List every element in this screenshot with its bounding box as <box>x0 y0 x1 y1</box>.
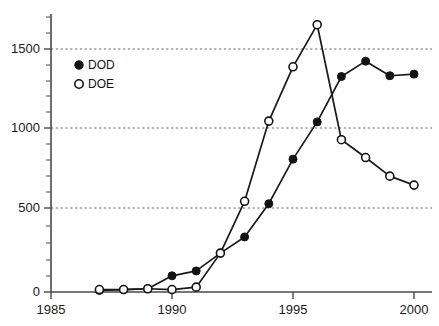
data-point <box>362 57 370 65</box>
y-tick-label-0: 0 <box>33 284 40 299</box>
chart-screenshot: 0 500 1000 1500 1985 1990 1995 2000 DOD … <box>0 0 439 326</box>
gridlines <box>51 49 432 208</box>
data-point <box>410 70 418 78</box>
data-point <box>241 233 249 241</box>
series-dod <box>95 57 418 294</box>
y-tick-label-500: 500 <box>18 200 40 215</box>
data-point <box>289 155 297 163</box>
data-point <box>95 286 103 294</box>
data-point <box>168 286 176 294</box>
x-tick-label-1995: 1995 <box>279 302 308 317</box>
data-point <box>289 63 297 71</box>
data-point <box>168 272 176 280</box>
data-point <box>337 73 345 81</box>
series-layer <box>95 21 418 295</box>
data-point <box>386 172 394 180</box>
y-axis-major-ticks <box>44 49 51 292</box>
axes <box>51 14 432 292</box>
x-tick-label-2000: 2000 <box>400 302 429 317</box>
y-tick-label-1500: 1500 <box>11 41 40 56</box>
data-point <box>386 72 394 80</box>
data-point <box>192 283 200 291</box>
legend-marker-doe <box>75 80 83 88</box>
data-point <box>192 267 200 275</box>
data-point <box>410 181 418 189</box>
x-axis-tick-labels: 1985 1990 1995 2000 <box>37 302 429 317</box>
y-tick-label-1000: 1000 <box>11 120 40 135</box>
x-tick-label-1990: 1990 <box>158 302 187 317</box>
data-point <box>120 286 128 294</box>
data-point <box>313 118 321 126</box>
data-point <box>313 21 321 29</box>
data-point <box>337 136 345 144</box>
data-point <box>265 117 273 125</box>
legend-label-doe: DOE <box>88 77 114 91</box>
data-point <box>144 285 152 293</box>
legend-label-dod: DOD <box>88 58 115 72</box>
data-point <box>241 197 249 205</box>
line-chart: 0 500 1000 1500 1985 1990 1995 2000 DOD … <box>0 0 439 326</box>
y-axis-tick-labels: 0 500 1000 1500 <box>11 41 40 299</box>
data-point <box>216 249 224 257</box>
data-point <box>265 200 273 208</box>
data-point <box>362 154 370 162</box>
series-line-dod <box>99 61 414 290</box>
legend-marker-dod <box>75 61 83 69</box>
legend: DOD DOE <box>75 58 115 91</box>
x-tick-label-1985: 1985 <box>37 302 66 317</box>
x-axis-major-ticks <box>51 292 414 299</box>
